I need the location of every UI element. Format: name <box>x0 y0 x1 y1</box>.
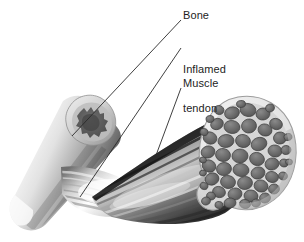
label-bone: Bone <box>183 9 209 22</box>
illustration-canvas <box>0 0 304 242</box>
label-muscle: Muscle <box>183 77 218 90</box>
label-inflamed-tendon-line2: tendon <box>183 102 226 115</box>
label-inflamed-tendon-line1: Inflamed <box>183 63 226 76</box>
anatomy-figure: Bone Inflamed tendon Muscle <box>0 0 304 242</box>
